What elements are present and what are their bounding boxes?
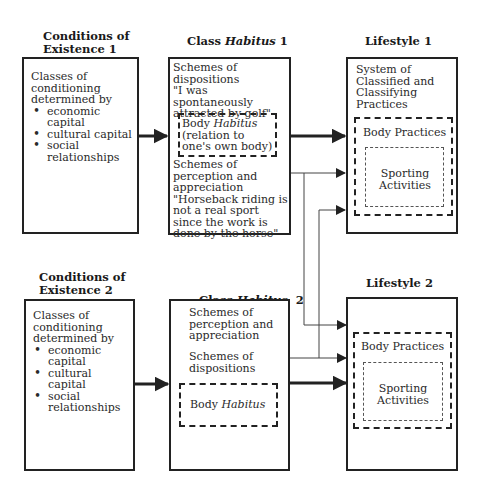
lifestyle2-sporting-label: Sporting Activities — [374, 383, 432, 406]
lifestyle2-body-practices-box: Body Practices Sporting Activities — [353, 332, 452, 429]
bullet-economic-capital: economic capital — [48, 345, 135, 368]
lifestyle1-heading: Lifestyle 1 — [365, 35, 432, 48]
bullet-social-relationships: social relationships — [47, 140, 139, 163]
lifestyle1-box: System of Classified and Classifying Pra… — [346, 57, 458, 234]
habitus1-heading-suffix: 1 — [276, 34, 288, 48]
lifestyle2-box: Body Practices Sporting Activities — [346, 297, 458, 471]
habitus1-heading-prefix: Class — [187, 34, 225, 48]
lifestyle1-sporting-label: Sporting Activities — [376, 168, 434, 191]
lifestyle2-body-practices-label: Body Practices — [361, 341, 451, 353]
conditions2-heading: Conditions of Existence 2 — [39, 271, 125, 297]
habitus2-dispositions-label: Schemes of dispositions — [189, 351, 284, 374]
bullet-cultural-capital: cultural capital — [48, 368, 93, 391]
lifestyle1-sporting-box: Sporting Activities — [365, 147, 444, 207]
conditions1-content: Classes of conditioning determined by ec… — [31, 71, 139, 163]
habitus2-box: Schemes of perception and appreciation S… — [169, 299, 290, 471]
conditions1-heading-line2: Existence 1 — [43, 43, 129, 56]
conditions2-heading-line2: Existence 2 — [39, 284, 125, 297]
bullet-social-relationships: social relationships — [48, 391, 135, 414]
conditions1-heading: Conditions of Existence 1 — [43, 30, 129, 56]
habitus2-body-habitus-box: Body Habitus — [179, 383, 278, 427]
habitus1-perception: Schemes of perception and appreciation "… — [173, 159, 291, 240]
lifestyle1-system-text: System of Classified and Classifying Pra… — [356, 64, 456, 110]
habitus1-dispositions-label: Schemes of dispositions — [173, 62, 291, 85]
habitus1-body-habitus-text: Body Habitus (relation to one's own body… — [182, 118, 276, 153]
conditions1-bullet-list: economic capital cultural capital social… — [31, 106, 139, 164]
conditions1-box: Classes of conditioning determined by ec… — [22, 57, 139, 234]
habitus1-perception-label: Schemes of perception and appreciation — [173, 159, 291, 194]
body-habitus-italic: Habitus — [221, 398, 265, 411]
habitus1-body-habitus-box: Body Habitus (relation to one's own body… — [178, 113, 277, 157]
conditions1-intro: Classes of conditioning determined by — [31, 71, 139, 106]
lifestyle2-sporting-box: Sporting Activities — [363, 362, 443, 421]
habitus1-heading-italic: Habitus — [225, 34, 276, 48]
habitus1-dispositions: Schemes of dispositions "I was spontaneo… — [173, 62, 291, 120]
body-habitus-note: (relation to one's own body) — [182, 130, 276, 153]
conditions2-box: Classes of conditioning determined by ec… — [24, 299, 135, 471]
body-habitus-prefix: Body — [190, 398, 221, 411]
habitus2-heading-suffix: 2 — [288, 293, 304, 307]
arrow-habitus2-perception-to-lifestyle1 — [319, 210, 345, 358]
conditions2-bullet-list: economic capital cultural capital social… — [33, 345, 135, 414]
habitus1-perception-quote: "Horseback riding is not a real sport si… — [173, 194, 291, 240]
bullet-economic-capital: economic capital — [47, 106, 139, 129]
lifestyle1-body-practices-label: Body Practices — [363, 127, 453, 139]
habitus2-body-habitus-text: Body Habitus — [190, 399, 275, 411]
habitus1-box: Schemes of dispositions "I was spontaneo… — [168, 57, 291, 235]
habitus2-perception-label: Schemes of perception and appreciation — [189, 307, 284, 342]
conditions2-content: Classes of conditioning determined by ec… — [33, 310, 135, 414]
conditions2-intro: Classes of conditioning determined by — [33, 310, 135, 345]
lifestyle1-body-practices-box: Body Practices Sporting Activities — [354, 117, 453, 216]
habitus1-heading: Class Habitus 1 — [187, 35, 288, 48]
arrow-habitus1-perception-to-lifestyle2 — [304, 173, 346, 325]
lifestyle2-heading: Lifestyle 2 — [366, 277, 433, 290]
